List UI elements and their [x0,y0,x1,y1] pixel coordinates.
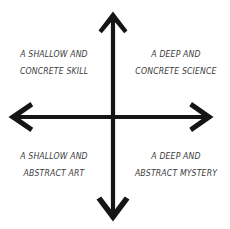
quadrant-label-bottom-right-line1: A DEEP AND [128,148,225,165]
quadrant-label-bottom-right-line2: ABSTRACT MYSTERY [128,165,225,182]
quadrant-label-bottom-left: A SHALLOW AND ABSTRACT ART [8,148,101,181]
quadrant-label-top-right: A DEEP AND CONCRETE SCIENCE [128,46,225,79]
quadrant-diagram-canvas: A SHALLOW AND CONCRETE SKILL A DEEP AND … [0,0,230,229]
quadrant-label-top-right-line1: A DEEP AND [128,46,225,63]
quadrant-label-top-right-line2: CONCRETE SCIENCE [128,63,225,80]
quadrant-label-bottom-left-line2: ABSTRACT ART [8,165,101,182]
quadrant-label-bottom-right: A DEEP AND ABSTRACT MYSTERY [128,148,225,181]
quadrant-label-top-left: A SHALLOW AND CONCRETE SKILL [8,46,101,79]
quadrant-label-top-left-line2: CONCRETE SKILL [8,63,101,80]
quadrant-label-top-left-line1: A SHALLOW AND [8,46,101,63]
axes-group [0,0,230,229]
quadrant-label-bottom-left-line1: A SHALLOW AND [8,148,101,165]
